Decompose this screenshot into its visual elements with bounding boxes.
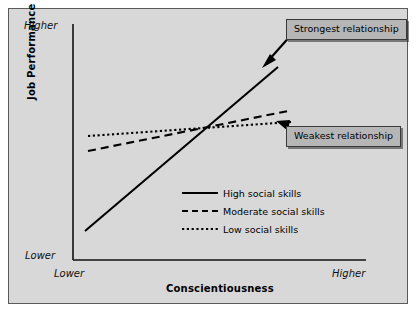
series-line-low-social-skills xyxy=(88,122,291,136)
legend-label-high-social-skills: High social skills xyxy=(223,188,301,199)
legend-label-moderate-social-skills: Moderate social skills xyxy=(223,206,325,217)
callout-strongest-relationship: Strongest relationship xyxy=(286,19,407,40)
legend-label-low-social-skills: Low social skills xyxy=(223,224,298,235)
chart-canvas xyxy=(0,0,416,314)
x-axis-title: Conscientiousness xyxy=(166,283,274,294)
x-axis-left-tick-label: Lower xyxy=(54,268,84,279)
series-line-moderate-social-skills xyxy=(88,111,288,151)
y-axis-title: Job Performance xyxy=(26,4,37,100)
callout-weakest-relationship: Weakest relationship xyxy=(286,126,401,147)
figure-container: Higher Lower Lower Higher Job Performanc… xyxy=(0,0,416,314)
y-axis-bottom-tick-label: Lower xyxy=(25,250,55,261)
x-axis-right-tick-label: Higher xyxy=(332,268,365,279)
